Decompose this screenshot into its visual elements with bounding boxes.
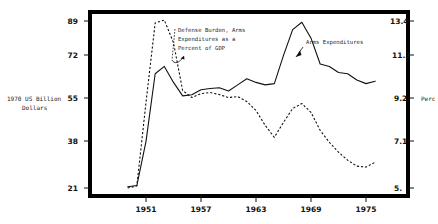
- left-tick-label-21: 21: [68, 184, 78, 193]
- chart-figure: 89 72 55 38 21 1970 US Billion Dollars 1…: [0, 0, 438, 224]
- right-tick-label-71: 7.1: [394, 137, 407, 146]
- right-axis-title: Perc: [421, 95, 436, 102]
- left-axis-title-line1: 1970 US Billion: [7, 95, 62, 102]
- right-tick-label-134: 13.4: [390, 17, 409, 26]
- left-axis-title-line2: Dollars: [22, 104, 48, 111]
- x-tick-label-1963: 1963: [246, 205, 267, 214]
- defense-burden-annotation-line2: Expenditures as a: [178, 36, 235, 43]
- x-tick-label-1969: 1969: [301, 205, 322, 214]
- defense-burden-annotation-line1: Defense Burden, Arms: [178, 27, 245, 33]
- left-tick-label-89: 89: [68, 17, 78, 26]
- left-tick-label-72: 72: [68, 51, 78, 60]
- x-tick-label-1975: 1975: [356, 205, 377, 214]
- arms-expenditures-annotation-line1: Arms Expenditures: [306, 39, 363, 46]
- right-tick-label-92: 9.2: [394, 94, 407, 103]
- left-tick-label-55: 55: [68, 94, 78, 103]
- chart-svg: 89 72 55 38 21 1970 US Billion Dollars 1…: [0, 0, 438, 224]
- right-tick-label-5: 5.: [394, 184, 402, 193]
- x-tick-label-1957: 1957: [191, 205, 212, 214]
- defense-burden-annotation-line3: Percent of GDP: [178, 45, 226, 51]
- x-tick-label-1951: 1951: [136, 205, 157, 214]
- left-tick-label-38: 38: [68, 137, 78, 146]
- right-tick-label-113: 11.3: [392, 51, 411, 60]
